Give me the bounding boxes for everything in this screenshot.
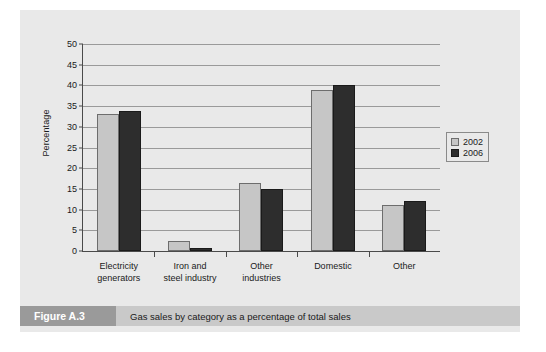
y-tick-label: 40 [67,80,77,90]
legend-swatch-2002 [451,138,459,146]
y-tick-label: 50 [67,39,77,49]
legend-item-2002: 2002 [451,136,483,147]
bar-2006-4 [333,85,355,251]
bar-group [83,44,154,251]
legend-label-2002: 2002 [463,137,483,147]
x-tick-mark [226,251,227,257]
bar-2006-1 [119,111,141,251]
bar-2006-2 [190,248,212,251]
bar-2006-3 [261,189,283,251]
legend-label-2006: 2006 [463,148,483,158]
x-tick-mark [369,251,370,257]
bar-2006-5 [404,201,426,251]
bar-2002-2 [168,241,190,251]
figure-caption-wrap: Gas sales by category as a percentage of… [116,306,520,326]
bar-2002-3 [239,183,261,251]
y-tick-label: 10 [67,205,77,215]
y-tick-label: 25 [67,143,77,153]
plot-area: 05101520253035404550 Electricitygenerato… [82,44,440,252]
legend-item-2006: 2006 [451,147,483,158]
y-tick-label: 15 [67,184,77,194]
bar-group [226,44,297,251]
bar-2002-5 [382,205,404,251]
figure-caption-bar: Figure A.3 Gas sales by category as a pe… [20,306,520,326]
figure-caption-text: Gas sales by category as a percentage of… [130,311,351,322]
bar-group [369,44,440,251]
y-tick-label: 30 [67,122,77,132]
legend-swatch-2006 [451,149,459,157]
bar-2002-1 [97,114,119,251]
bar-group [297,44,368,251]
x-tick-mark [154,251,155,257]
y-tick-label: 45 [67,60,77,70]
y-tick-label: 35 [67,101,77,111]
y-tick-label: 20 [67,163,77,173]
x-tick-mark [297,251,298,257]
figure-number-tag: Figure A.3 [20,306,116,326]
bar-2002-4 [311,90,333,251]
y-axis-title: Percentage [41,83,51,183]
bars-layer [83,44,440,251]
x-axis-label-5: Other [361,261,447,273]
bar-chart: Percentage 05101520253035404550 Electric… [20,10,520,298]
figure-panel: Percentage 05101520253035404550 Electric… [20,10,520,332]
bar-group [154,44,225,251]
y-tick-label: 0 [72,246,77,256]
chart-legend: 20022006 [446,132,489,162]
y-tick-label: 5 [72,225,77,235]
